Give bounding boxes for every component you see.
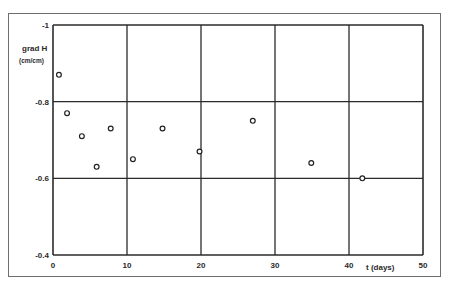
data-point (360, 176, 365, 181)
x-tick-label: 10 (123, 261, 132, 270)
y-axis-label-line1: grad H (22, 44, 48, 53)
x-axis-label: t (days) (366, 263, 395, 272)
data-point (197, 149, 202, 154)
x-tick-label: 20 (197, 261, 206, 270)
x-tick-label: 30 (271, 261, 280, 270)
data-point (57, 72, 62, 77)
y-tick-label: -1 (42, 21, 50, 30)
data-point (131, 157, 136, 162)
data-points (57, 72, 365, 180)
data-point (65, 111, 70, 116)
data-point (250, 118, 255, 123)
y-tick-label: -0.4 (35, 251, 49, 260)
y-tick-label: -0.8 (35, 98, 49, 107)
y-tick-label: -0.6 (35, 174, 49, 183)
x-tick-label: 50 (419, 261, 428, 270)
data-point (94, 164, 99, 169)
data-point (79, 134, 84, 139)
data-point (160, 126, 165, 131)
x-tick-label: 40 (345, 261, 354, 270)
grid-lines (53, 25, 423, 255)
tick-labels: 01020304050-1-0.8-0.6-0.4 (35, 21, 428, 270)
scatter-chart: 01020304050-1-0.8-0.6-0.4 grad H (cm/cm)… (0, 0, 450, 285)
data-point (108, 126, 113, 131)
y-axis-label-line2: (cm/cm) (19, 57, 44, 65)
x-tick-label: 0 (51, 261, 56, 270)
data-point (309, 161, 314, 166)
